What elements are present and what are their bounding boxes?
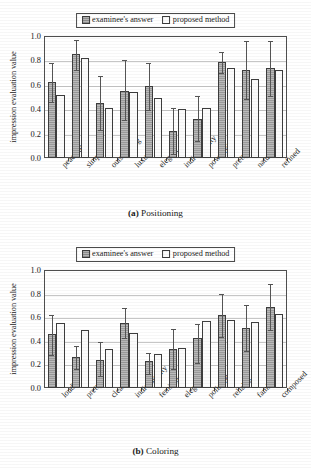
y-axis-tick-label: 0.4 [31,336,41,345]
error-bar-cap [219,52,224,53]
error-bar [222,294,223,338]
error-bar [149,353,150,374]
error-bar [125,60,126,120]
bar-proposed-method [202,321,210,388]
chart-panel-coloring: examinee's answer proposed method impres… [0,234,311,468]
y-axis-tick-label: 0.0 [31,384,41,393]
error-bar-cap [195,96,200,97]
error-bar [76,346,77,370]
error-bar-cap [74,369,79,370]
error-bar-cap [49,315,54,316]
error-bar-cap [146,110,151,111]
error-bar-cap [268,284,273,285]
error-bar-cap [49,63,54,64]
error-bar [149,63,150,111]
x-axis-category-label: peaceful [60,163,66,169]
error-bar [125,308,126,339]
y-axis-tick-label: 1.0 [31,266,41,275]
error-bar [270,284,271,330]
x-axis-category-label: individuality [133,393,139,399]
error-bar-cap [244,99,249,100]
y-axis-tick-label: 1.0 [31,32,41,41]
error-bar-cap [146,353,151,354]
error-bar-cap [244,41,249,42]
error-bar-cap [98,342,103,343]
x-axis-category-label: natural [255,163,261,169]
bar-proposed-method [154,98,162,158]
x-axis-category-label: simple [84,163,90,169]
y-axis-tick-label: 0.8 [31,56,41,65]
y-axis-tick-label: 0.2 [31,360,41,369]
error-bar-cap [219,73,224,74]
x-axis-category-label: outstanding [109,163,115,169]
error-bar-cap [74,70,79,71]
figure-container: examinee's answer proposed method impres… [0,0,311,468]
bar-proposed-method [275,314,283,388]
plot-area: impression evaluation value0.00.20.40.60… [0,0,311,234]
bar-proposed-method [227,68,235,158]
error-bar-cap [244,305,249,306]
panel-caption: (b) Coloring [0,446,311,456]
bar-proposed-method [154,354,162,388]
error-bar [100,76,101,130]
error-bar [270,41,271,96]
caption-text: Coloring [146,446,179,456]
caption-prefix: (a) [128,208,139,218]
error-bar [100,342,101,376]
error-bar-cap [195,141,200,142]
bar-proposed-method [129,92,137,158]
error-bar-cap [268,41,273,42]
y-gridline [45,295,286,296]
bar-proposed-method [178,348,186,388]
x-axis-category-label: powerful [206,163,212,169]
bar-proposed-method [129,333,137,388]
error-bar-cap [171,154,176,155]
error-bar-cap [49,102,54,103]
x-axis-category-label: composed [279,393,285,399]
error-bar [246,305,247,351]
y-axis-tick-label: 0.4 [31,105,41,114]
error-bar [52,315,53,355]
y-axis-tick-label: 0.0 [31,154,41,163]
y-axis-title: impression evaluation value [9,270,18,388]
y-axis-tick-label: 0.6 [31,313,41,322]
x-axis-category-label: pretty [230,163,236,169]
error-bar-cap [122,60,127,61]
error-bar [222,52,223,73]
error-bar-cap [146,374,151,375]
x-axis-category-label: feminine [157,393,163,399]
error-bar-cap [268,96,273,97]
bar-proposed-method [81,58,89,158]
error-bar-cap [195,363,200,364]
error-bar-cap [98,130,103,131]
error-bar [246,41,247,100]
error-bar-cap [219,294,224,295]
error-bar [198,324,199,363]
error-bar-cap [219,337,224,338]
x-axis-category-label: familiar [255,393,261,399]
y-gridline [45,318,286,319]
error-bar [52,63,53,102]
error-bar-cap [171,108,176,109]
error-bar-cap [122,308,127,309]
caption-prefix: (b) [132,446,143,456]
error-bar-cap [244,351,249,352]
error-bar-cap [122,120,127,121]
bar-examinee-answer [218,62,226,158]
y-axis-tick-label: 0.8 [31,289,41,298]
error-bar-cap [146,63,151,64]
error-bar-cap [49,355,54,356]
y-axis-tick-label: 0.6 [31,80,41,89]
x-axis-category-label: clear [109,393,115,399]
bar-proposed-method [105,349,113,388]
x-axis-category-label: luxury [133,163,139,169]
bar-proposed-method [202,108,210,158]
error-bar-cap [122,338,127,339]
caption-text: Positioning [141,208,183,218]
bar-proposed-method [56,95,64,158]
panel-caption: (a) Positioning [0,208,311,218]
x-axis-category-label: elegant [182,393,188,399]
y-axis-title: impression evaluation value [9,36,18,158]
x-axis-category-label: individuality [182,163,188,169]
error-bar-cap [98,376,103,377]
